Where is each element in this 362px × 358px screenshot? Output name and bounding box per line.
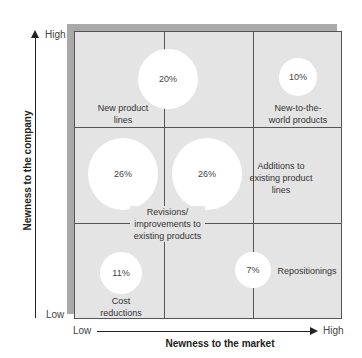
label-new-to-the-world: New-to-the- world products: [258, 102, 338, 126]
x-axis-arrow: [97, 331, 310, 332]
bubble-additions: 26%: [172, 138, 242, 210]
grid-divider-h1: [74, 127, 342, 128]
x-axis-title: Newness to the market: [130, 338, 310, 349]
x-axis-arrowhead-icon: [310, 327, 318, 335]
y-axis-arrow: [35, 36, 36, 318]
bubble-new-product-lines: 20%: [138, 49, 198, 109]
y-axis-high-label: High: [45, 29, 66, 40]
y-axis-low-label: Low: [46, 309, 64, 320]
bubble-new-to-the-world: 10%: [279, 58, 317, 96]
label-revisions: Revisions/ improvements to existing prod…: [130, 206, 205, 242]
label-additions: Additions to existing product lines: [246, 160, 316, 196]
bubble-revisions: 26%: [88, 138, 158, 210]
bubble-cost-reductions: 11%: [100, 252, 142, 294]
label-new-product-lines: New product lines: [88, 102, 158, 126]
label-repositionings: Repositionings: [274, 265, 340, 277]
x-axis-low-label: Low: [73, 325, 91, 336]
bubble-repositionings: 7%: [235, 252, 271, 288]
y-axis-title: Newness to the company: [22, 91, 33, 251]
grid-divider-h2: [74, 223, 342, 224]
x-axis-high-label: High: [323, 325, 344, 336]
y-axis-arrowhead-icon: [31, 30, 39, 38]
label-cost-reductions: Cost reductions: [88, 295, 154, 319]
